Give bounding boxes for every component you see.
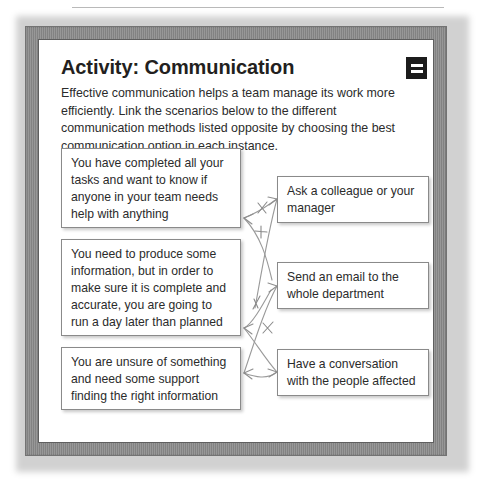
connector-l1-r1 [244, 199, 277, 218]
arrowhead-r2 [268, 283, 277, 292]
scenario-box-1[interactable]: You have completed all your tasks and wa… [61, 148, 241, 228]
tick-mark-1 [258, 202, 267, 213]
top-divider-rule [72, 7, 444, 8]
activity-content: Activity: Communication Effective commun… [39, 40, 434, 443]
method-box-1[interactable]: Ask a colleague or your manager [277, 176, 429, 223]
scenario-box-2[interactable]: You need to produce some information, bu… [61, 239, 241, 336]
activity-frame: Activity: Communication Effective commun… [25, 26, 447, 456]
tick-mark-4 [263, 322, 273, 333]
connector-stroke-a [244, 218, 272, 280]
activity-page: Activity: Communication Effective commun… [38, 39, 434, 443]
method-box-2[interactable]: Send an email to the whole department [277, 262, 429, 309]
scenario-box-3[interactable]: You are unsure of something and need som… [61, 347, 241, 410]
connector-l2-r3 [244, 328, 277, 372]
method-box-3[interactable]: Have a conversation with the people affe… [277, 349, 429, 396]
connector-l3-r2 [244, 286, 277, 373]
arrowhead-l2 [244, 324, 253, 334]
